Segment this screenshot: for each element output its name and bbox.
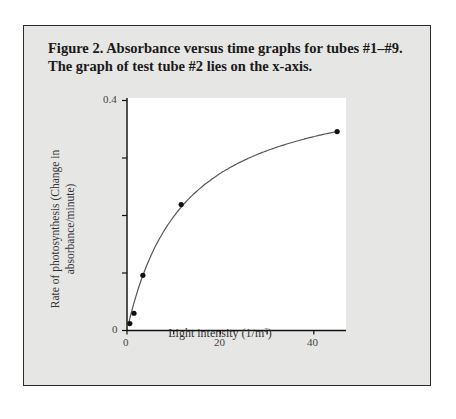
y-axis-ticks (122, 101, 127, 331)
y-axis-label-line1: Rate of photosynthesis (Change in (48, 128, 63, 330)
y-tick-label-zero: 0 (112, 323, 118, 335)
y-axis-label-line2: absorbance/minute) (63, 128, 78, 330)
data-point-marker (179, 202, 184, 207)
data-point-marker (335, 129, 340, 134)
y-tick-label-top: 0.4 (103, 93, 117, 105)
data-point-marker (131, 311, 136, 316)
data-point-marker (140, 273, 145, 278)
y-axis-label: Rate of photosynthesis (Change in absorb… (48, 128, 84, 330)
x-axis-label: Light intensity (1/m2) (130, 326, 310, 341)
plot-area (128, 98, 346, 330)
x-tick-label-0: 0 (123, 336, 129, 348)
